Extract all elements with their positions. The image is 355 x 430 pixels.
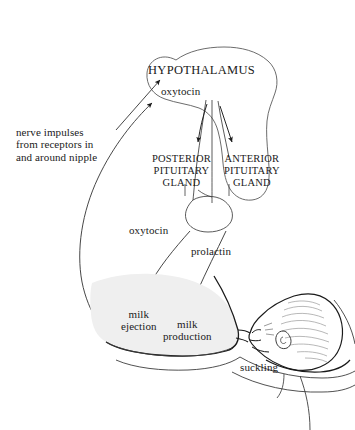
suckling-label: suckling	[240, 361, 278, 373]
hypothalamus-label: HYPOTHALAMUS	[148, 63, 255, 77]
oxytocin-release-arrow	[116, 80, 160, 130]
posterior-pituitary-label: POSTERIOR PITUITARY GLAND	[152, 153, 211, 188]
milk-production-label: milk production	[163, 318, 212, 343]
anterior-pituitary-label: ANTERIOR PITUITARY GLAND	[224, 153, 280, 188]
blanket-fold-bottom	[300, 376, 310, 430]
milk-ejection-label: milk ejection	[121, 308, 157, 333]
chest-fold-line	[116, 357, 240, 370]
suckling-leader-line	[277, 374, 284, 398]
oxytocin-top-label: oxytocin	[161, 85, 200, 97]
infant-head-outline	[249, 294, 343, 370]
pituitary-bulb	[185, 196, 232, 232]
lactation-reflex-diagram: HYPOTHALAMUS oxytocin nerve impulses fro…	[0, 0, 355, 430]
nerve-impulses-label: nerve impulses from receptors in and aro…	[16, 126, 97, 163]
prolactin-pathway-label: prolactin	[191, 245, 231, 257]
oxytocin-pathway-label: oxytocin	[129, 224, 168, 236]
blanket-edge-lower	[232, 372, 355, 392]
